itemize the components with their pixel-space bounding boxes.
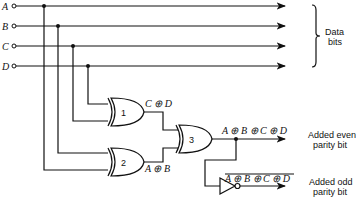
- input-d-terminal: [12, 64, 16, 68]
- brace-label-1: Data: [325, 27, 344, 37]
- wire-d: [88, 66, 108, 104]
- circuit-svg: A B C D Data bits 1 2 3 C ⊕ D A ⊕ B A ⊕ …: [0, 0, 356, 206]
- input-label-c: C: [2, 41, 9, 52]
- gate3-expression: A ⊕ B ⊕ C ⊕ D: [221, 125, 288, 136]
- even-label-2: parity bit: [313, 140, 348, 150]
- brace-icon: [312, 5, 320, 67]
- junction-dot: [86, 64, 90, 68]
- input-label-d: D: [1, 61, 10, 72]
- input-label-a: A: [1, 1, 9, 12]
- gate2-expression: A ⊕ B: [144, 163, 170, 174]
- input-a-terminal: [12, 4, 16, 8]
- junction-dot: [71, 44, 75, 48]
- even-label-1: Added even: [308, 130, 356, 140]
- wire-g2-out: [144, 148, 178, 162]
- wire-g1-out: [144, 112, 178, 130]
- brace-label-2: bits: [328, 37, 343, 47]
- wire-a: [44, 6, 108, 170]
- input-label-b: B: [2, 21, 8, 32]
- gate-1-number: 1: [121, 108, 126, 118]
- parity-generator-diagram: A B C D Data bits 1 2 3 C ⊕ D A ⊕ B A ⊕ …: [0, 0, 356, 206]
- gate-3-number: 3: [189, 135, 194, 145]
- inverter-expression: A ⊕ B ⊕ C ⊕ D: [224, 173, 291, 184]
- gate-2-number: 2: [121, 158, 126, 168]
- odd-label-2: parity bit: [313, 187, 348, 197]
- wire-b: [58, 26, 108, 153]
- gate1-expression: C ⊕ D: [145, 98, 173, 109]
- input-b-terminal: [12, 24, 16, 28]
- junction-dot: [56, 24, 60, 28]
- wire-c: [73, 46, 108, 121]
- junction-dot: [42, 4, 46, 8]
- junction-dot: [234, 137, 238, 141]
- input-c-terminal: [12, 44, 16, 48]
- odd-label-1: Added odd: [309, 177, 353, 187]
